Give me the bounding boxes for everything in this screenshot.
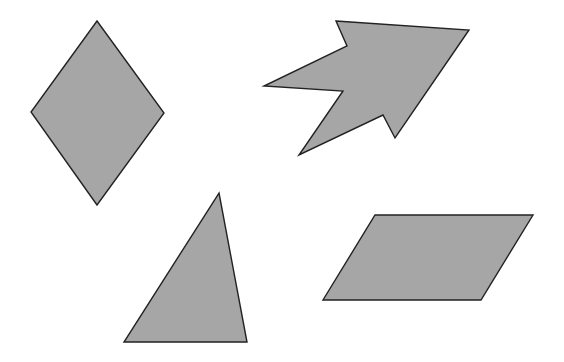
parallelogram-shape bbox=[323, 215, 533, 300]
triangle-shape bbox=[124, 193, 247, 342]
arrow-shape bbox=[264, 21, 469, 155]
rhombus-shape bbox=[31, 21, 164, 205]
shapes-canvas bbox=[0, 0, 564, 362]
